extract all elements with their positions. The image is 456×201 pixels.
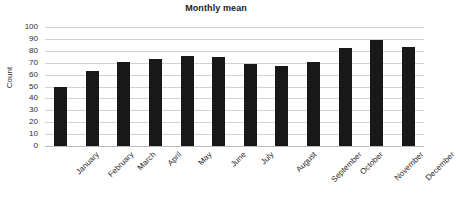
y-tick-label: 10 — [29, 130, 38, 138]
chart-title: Monthly mean — [0, 3, 432, 13]
x-tick-label: August — [294, 150, 318, 174]
bar[interactable] — [54, 87, 67, 147]
y-tick-label: 50 — [29, 83, 38, 91]
bar[interactable] — [149, 59, 162, 146]
x-tick-label: November — [392, 150, 424, 182]
x-tick-label: December — [424, 150, 456, 182]
x-tick-label: March — [135, 150, 157, 172]
x-tick-label: April — [165, 150, 183, 168]
bar[interactable] — [275, 66, 288, 146]
bar[interactable] — [370, 40, 383, 146]
bar[interactable] — [86, 71, 99, 146]
y-tick-label: 90 — [29, 35, 38, 43]
x-tick-label: May — [197, 150, 214, 167]
x-tick-label: January — [74, 150, 100, 176]
x-tick-label: June — [229, 150, 248, 169]
y-tick-label: 80 — [29, 47, 38, 55]
y-tick-label: 0 — [34, 142, 38, 150]
y-axis-tick-labels: 1009080706050403020100 — [0, 0, 42, 201]
bar[interactable] — [181, 56, 194, 146]
y-tick-label: 30 — [29, 106, 38, 114]
bar[interactable] — [244, 64, 257, 146]
bar[interactable] — [402, 47, 415, 146]
y-tick-label: 20 — [29, 118, 38, 126]
x-tick-label: July — [259, 150, 275, 166]
bar-series — [45, 27, 424, 146]
x-axis-tick-labels: JanuaryFebruaryMarchAprilMayJuneJulyAugu… — [45, 147, 424, 201]
y-tick-label: 60 — [29, 71, 38, 79]
bar[interactable] — [307, 62, 320, 146]
y-tick-label: 40 — [29, 94, 38, 102]
x-tick-label: September — [330, 150, 364, 184]
bar[interactable] — [212, 57, 225, 146]
y-tick-label: 100 — [25, 23, 38, 31]
bar[interactable] — [339, 48, 352, 146]
bar[interactable] — [117, 62, 130, 146]
x-tick-label: October — [358, 150, 384, 176]
x-tick-label: February — [107, 150, 136, 179]
y-tick-label: 70 — [29, 59, 38, 67]
